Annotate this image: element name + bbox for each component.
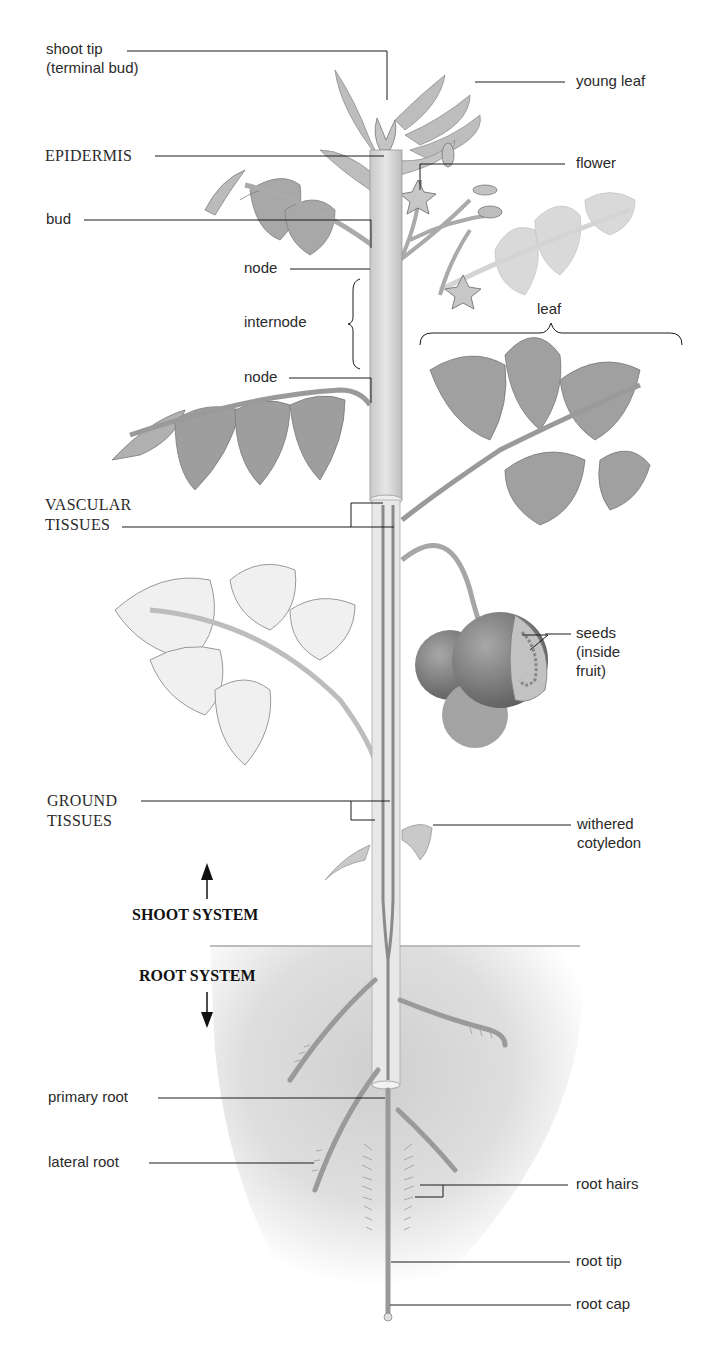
label-flower: flower bbox=[576, 154, 616, 173]
stem-lower-section bbox=[372, 500, 400, 1085]
tomato-fruits bbox=[415, 612, 548, 748]
label-root-system: ROOT SYSTEM bbox=[139, 966, 256, 986]
label-internode: internode bbox=[244, 313, 307, 332]
root-system-arrow-icon bbox=[201, 992, 213, 1028]
label-ground-tissues: GROUND TISSUES bbox=[47, 791, 117, 831]
label-root-cap: root cap bbox=[576, 1295, 630, 1314]
middle-left-leaves bbox=[112, 396, 345, 490]
label-ground-line2: TISSUES bbox=[47, 811, 117, 831]
lower-left-leaves bbox=[115, 564, 355, 765]
label-seeds-line2: (inside bbox=[576, 643, 620, 662]
terminal-bud bbox=[375, 118, 396, 150]
label-node-lower: node bbox=[244, 368, 277, 387]
label-withered-cotyledon: withered cotyledon bbox=[577, 815, 641, 853]
label-leaf: leaf bbox=[537, 300, 561, 319]
faded-right-leaves bbox=[495, 193, 635, 296]
label-epidermis: EPIDERMIS bbox=[45, 146, 132, 166]
label-vascular-line1: VASCULAR bbox=[45, 495, 132, 515]
label-withered-line1: withered bbox=[577, 815, 641, 834]
label-node-upper: node bbox=[244, 259, 277, 278]
label-bud: bud bbox=[46, 210, 71, 229]
label-root-hairs: root hairs bbox=[576, 1175, 639, 1194]
label-shoot-tip: shoot tip (terminal bud) bbox=[46, 40, 139, 78]
label-seeds-line1: seeds bbox=[576, 624, 620, 643]
label-young-leaf: young leaf bbox=[576, 72, 645, 91]
label-shoot-tip-line1: shoot tip bbox=[46, 40, 139, 59]
label-seeds-line3: fruit) bbox=[576, 662, 620, 681]
label-withered-line2: cotyledon bbox=[577, 834, 641, 853]
shoot-system-arrow-icon bbox=[201, 863, 213, 899]
label-lateral-root: lateral root bbox=[48, 1153, 119, 1172]
label-seeds: seeds (inside fruit) bbox=[576, 624, 620, 680]
root-cap-art bbox=[384, 1313, 392, 1321]
label-vascular-tissues: VASCULAR TISSUES bbox=[45, 495, 132, 535]
label-ground-line1: GROUND bbox=[47, 791, 117, 811]
plant-diagram: shoot tip (terminal bud) young leaf EPID… bbox=[0, 0, 716, 1366]
label-shoot-system: SHOOT SYSTEM bbox=[132, 905, 258, 925]
label-shoot-tip-line2: (terminal bud) bbox=[46, 59, 139, 78]
withered-cotyledon bbox=[402, 824, 432, 860]
label-vascular-line2: TISSUES bbox=[45, 515, 132, 535]
label-root-tip: root tip bbox=[576, 1252, 622, 1271]
stem-upper bbox=[370, 150, 402, 500]
label-primary-root: primary root bbox=[48, 1088, 128, 1107]
